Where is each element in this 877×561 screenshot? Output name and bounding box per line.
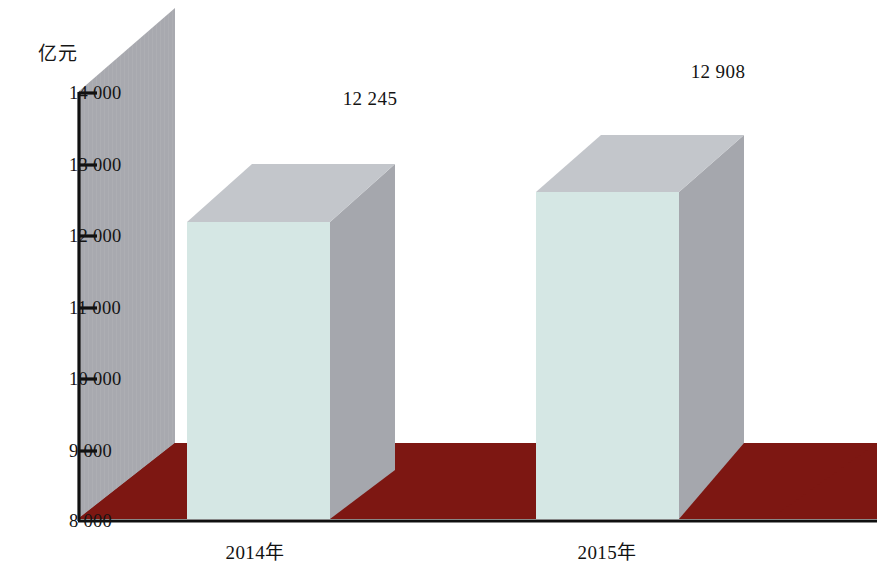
chart-scene [0,0,877,561]
bar-value-label-2014: 12 245 [343,88,398,110]
bar-2014-front-face [187,222,330,519]
x-axis-label-2014: 2014年 [226,537,285,561]
bar-chart-figure: 亿元 14 000 13 000 12 000 11 000 10 000 9 … [0,0,877,561]
bar-2014-side-face [330,164,395,519]
y-axis-unit-label: 亿元 [38,38,77,65]
bar-2015-front-face [536,192,679,519]
x-axis-label-2015: 2015年 [578,537,637,561]
bar-value-label-2015: 12 908 [691,61,746,83]
